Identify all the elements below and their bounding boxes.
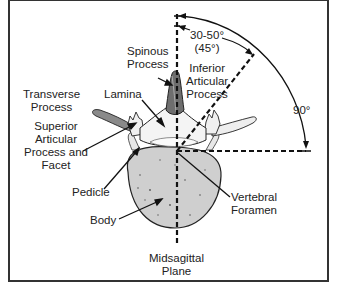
arc-arrow-bottom — [303, 141, 309, 149]
facet-arrow-left — [178, 25, 186, 31]
label-facet-angle: 30-50° (45°) — [190, 29, 224, 55]
label-right-angle: 90° — [293, 104, 310, 117]
label-body: Body — [90, 214, 116, 227]
label-midsagittal-plane: Midsagittal Plane — [149, 252, 204, 278]
label-inferior-articular-process: Inferior Articular Process — [186, 62, 228, 101]
label-superior-articular-process: Superior Articular Process and Facet — [24, 120, 88, 172]
arc-arrow-top — [178, 13, 186, 19]
vertebral-body-shape — [127, 147, 221, 228]
label-pedicle: Pedicle — [72, 186, 110, 199]
label-spinous-process: Spinous Process — [127, 45, 169, 71]
label-transverse-process: Transverse Process — [23, 88, 80, 114]
label-vertebral-foramen: Vertebral Foramen — [231, 191, 277, 217]
label-lamina: Lamina — [104, 88, 142, 101]
spinous-process-shape — [166, 71, 184, 115]
